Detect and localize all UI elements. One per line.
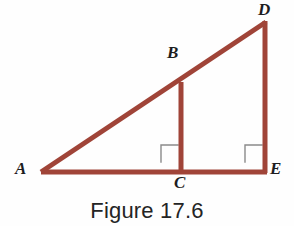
vertex-label-c: C xyxy=(174,174,185,191)
figure-caption: Figure 17.6 xyxy=(0,198,294,224)
right-angle-marker-e xyxy=(245,145,262,162)
vertex-label-b: B xyxy=(167,44,178,61)
vertex-label-e: E xyxy=(270,160,281,177)
vertex-label-a: A xyxy=(15,160,26,177)
figure-container: A B C D E Figure 17.6 xyxy=(0,0,294,226)
segment-ad xyxy=(41,22,266,172)
right-angle-marker-c xyxy=(161,145,178,162)
geometry-diagram xyxy=(0,0,294,226)
vertex-label-d: D xyxy=(258,1,270,18)
